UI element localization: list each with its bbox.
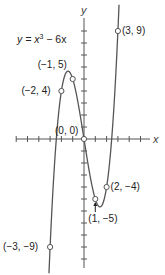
point-label: (2, −4) bbox=[111, 181, 140, 192]
point-marker bbox=[59, 88, 64, 93]
point-marker bbox=[115, 28, 120, 33]
equation-rhs: − 6x bbox=[43, 33, 67, 45]
equation-label: y = x3 − 6x bbox=[16, 33, 67, 45]
point-label: (−3, −9) bbox=[3, 241, 38, 252]
point-marker bbox=[70, 76, 75, 81]
y-axis-label: y bbox=[80, 4, 88, 16]
point-label: (−1, 5) bbox=[38, 59, 67, 70]
cubic-function-plot: (−3, −9)(−2, 4)(−1, 5)(0, 0)(1, −5)(2, −… bbox=[0, 0, 165, 275]
axes bbox=[16, 18, 150, 268]
point-label: (0, 0) bbox=[55, 125, 78, 136]
point-marker bbox=[48, 244, 53, 249]
point-label: (1, −5) bbox=[88, 213, 117, 224]
x-axis-label: x bbox=[152, 133, 159, 145]
point-marker bbox=[93, 196, 98, 201]
point-marker bbox=[81, 136, 86, 141]
point-marker bbox=[104, 184, 109, 189]
point-label: (−2, 4) bbox=[21, 85, 50, 96]
equation-lhs: y = x bbox=[16, 33, 40, 45]
point-label: (3, 9) bbox=[122, 25, 145, 36]
